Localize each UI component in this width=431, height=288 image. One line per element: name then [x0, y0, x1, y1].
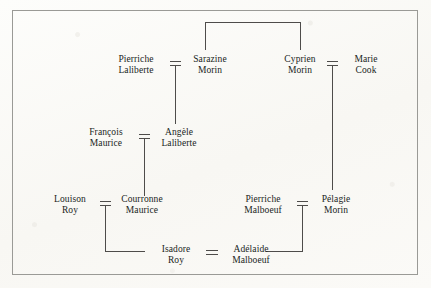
- person-given-name: Sarazine: [182, 54, 238, 65]
- marriage-symbol-u6: [206, 250, 218, 255]
- descent-line-u2-to-pelagie: [332, 66, 333, 190]
- person-given-name: Pierriche: [108, 54, 164, 65]
- person-given-name: Courronne: [112, 194, 172, 205]
- person-surname: Morin: [272, 65, 328, 76]
- person-surname: Maurice: [78, 138, 134, 149]
- person-given-name: Cyprien: [272, 54, 328, 65]
- person-surname: Morin: [182, 65, 238, 76]
- person-angele-laliberte: Angèle Laliberte: [151, 127, 207, 148]
- person-given-name: François: [78, 127, 134, 138]
- person-pierriche-laliberte: Pierriche Laliberte: [108, 54, 164, 75]
- descent-line-u1-to-angele: [175, 66, 176, 124]
- person-surname: Maurice: [112, 205, 172, 216]
- person-surname: Morin: [310, 205, 362, 216]
- person-francois-maurice: François Maurice: [78, 127, 134, 148]
- person-cyprien-morin: Cyprien Morin: [272, 54, 328, 75]
- sibling-bracket-left-drop: [205, 22, 206, 50]
- person-surname: Cook: [340, 65, 392, 76]
- person-courronne-maurice: Courronne Maurice: [112, 194, 172, 215]
- person-given-name: Pierriche: [233, 194, 293, 205]
- person-given-name: Pélagie: [310, 194, 362, 205]
- person-pelagie-morin: Pélagie Morin: [310, 194, 362, 215]
- person-given-name: Isadore: [150, 244, 202, 255]
- sibling-bracket-right-drop: [300, 22, 301, 50]
- person-isadore-roy: Isadore Roy: [150, 244, 202, 265]
- descent-line-u5-drop: [302, 206, 303, 251]
- descent-line-u4-drop: [105, 206, 106, 251]
- person-adelaide-malboeuf: Adélaide Malboeuf: [222, 244, 280, 265]
- descent-line-u4-to-isadore: [105, 251, 145, 252]
- person-given-name: Louison: [44, 194, 96, 205]
- person-marie-cook: Marie Cook: [340, 54, 392, 75]
- chart-border-frame: [12, 10, 418, 275]
- descent-line-u3-to-courronne: [144, 139, 145, 196]
- person-given-name: Angèle: [151, 127, 207, 138]
- genealogy-chart: Pierriche Laliberte Sarazine Morin Cypri…: [0, 0, 431, 288]
- person-given-name: Marie: [340, 54, 392, 65]
- person-surname: Roy: [44, 205, 96, 216]
- sibling-bracket-top: [205, 22, 301, 23]
- person-given-name: Adélaide: [222, 244, 280, 255]
- person-surname: Laliberte: [151, 138, 207, 149]
- person-surname: Roy: [150, 255, 202, 266]
- person-surname: Laliberte: [108, 65, 164, 76]
- person-sarazine-morin: Sarazine Morin: [182, 54, 238, 75]
- person-surname: Malboeuf: [222, 255, 280, 266]
- person-pierriche-malboeuf: Pierriche Malboeuf: [233, 194, 293, 215]
- person-surname: Malboeuf: [233, 205, 293, 216]
- person-louison-roy: Louison Roy: [44, 194, 96, 215]
